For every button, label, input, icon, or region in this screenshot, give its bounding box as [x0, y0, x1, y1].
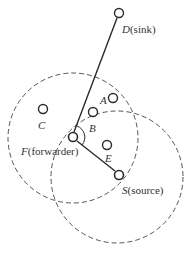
node-d — [115, 9, 124, 18]
label-f: F(forwarder) — [20, 145, 79, 158]
node-f — [69, 133, 78, 142]
network-diagram: D(sink) A B C F(forwarder) E S(source) — [0, 0, 188, 258]
node-b — [89, 108, 98, 117]
label-a: A — [99, 94, 107, 106]
label-s: S(source) — [122, 184, 164, 197]
node-e — [103, 141, 112, 150]
node-s — [115, 171, 124, 180]
label-d: D(sink) — [121, 23, 156, 36]
node-a — [109, 94, 118, 103]
node-c — [39, 105, 48, 114]
label-c: C — [38, 119, 46, 131]
label-e: E — [104, 152, 112, 164]
label-b: B — [89, 122, 96, 134]
